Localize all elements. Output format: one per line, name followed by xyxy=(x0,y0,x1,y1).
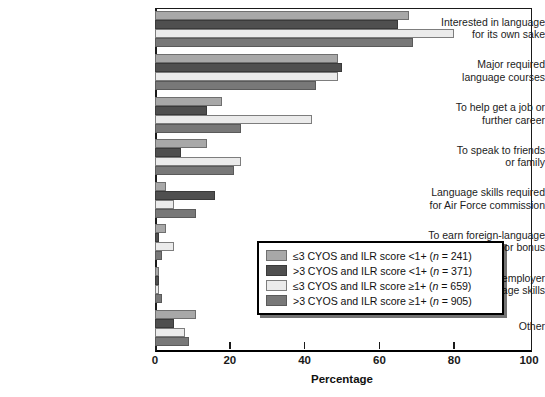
bar-0-series-0 xyxy=(155,11,409,20)
bar-5-series-2 xyxy=(155,242,174,251)
legend-label-1: >3 CYOS and ILR score <1+ (n = 371) xyxy=(293,265,472,277)
category-label-4: Language skills required for Air Force c… xyxy=(397,186,545,211)
legend-item-3: >3 CYOS and ILR score ≥1+ (n = 905) xyxy=(266,293,495,308)
x-tick-60 xyxy=(379,342,381,349)
legend-label-2: ≤3 CYOS and ILR score ≥1+ (n = 659) xyxy=(293,280,471,292)
bar-5-series-3 xyxy=(155,251,162,260)
x-tick-label-20: 20 xyxy=(223,354,236,366)
bar-3-series-0 xyxy=(155,139,207,148)
bar-5-series-1 xyxy=(155,233,159,242)
bar-3-series-1 xyxy=(155,148,181,157)
bar-1-series-3 xyxy=(155,81,316,90)
x-tick-label-60: 60 xyxy=(373,354,386,366)
bar-3-series-2 xyxy=(155,157,241,166)
bar-0-series-3 xyxy=(155,38,413,47)
bar-7-series-0 xyxy=(155,310,196,319)
x-tick-label-40: 40 xyxy=(298,354,311,366)
legend: ≤3 CYOS and ILR score <1+ (n = 241)>3 CY… xyxy=(257,241,504,315)
x-tick-label-100: 100 xyxy=(519,354,538,366)
bar-7-series-2 xyxy=(155,328,185,337)
bar-2-series-0 xyxy=(155,97,222,106)
bar-4-series-3 xyxy=(155,209,196,218)
category-label-1: Major required language courses xyxy=(397,58,545,83)
x-tick-40 xyxy=(304,342,306,349)
bar-0-series-2 xyxy=(155,29,454,38)
legend-swatch-0 xyxy=(266,250,287,261)
bar-0-series-1 xyxy=(155,20,398,29)
bar-2-series-1 xyxy=(155,106,207,115)
bar-2-series-2 xyxy=(155,115,312,124)
bar-6-series-1 xyxy=(155,276,159,285)
x-tick-20 xyxy=(229,342,231,349)
bar-2-series-3 xyxy=(155,124,241,133)
legend-item-0: ≤3 CYOS and ILR score <1+ (n = 241) xyxy=(266,248,495,263)
legend-swatch-3 xyxy=(266,295,287,306)
bar-6-series-3 xyxy=(155,294,162,303)
x-tick-label-80: 80 xyxy=(448,354,461,366)
legend-swatch-2 xyxy=(266,280,287,291)
bar-7-series-3 xyxy=(155,337,189,346)
legend-item-1: >3 CYOS and ILR score <1+ (n = 371) xyxy=(266,263,495,278)
category-label-7: Other xyxy=(397,320,545,333)
legend-swatch-1 xyxy=(266,265,287,276)
bar-7-series-1 xyxy=(155,319,174,328)
category-label-3: To speak to friends or family xyxy=(397,144,545,169)
bar-chart: Interested in language for its own sakeM… xyxy=(0,0,545,397)
bar-4-series-0 xyxy=(155,182,166,191)
bar-5-series-0 xyxy=(155,224,166,233)
bar-4-series-2 xyxy=(155,200,174,209)
x-tick-80 xyxy=(453,342,455,349)
bar-1-series-2 xyxy=(155,72,338,81)
x-axis-title: Percentage xyxy=(155,373,529,385)
bar-1-series-0 xyxy=(155,54,338,63)
bar-6-series-0 xyxy=(155,267,159,276)
legend-item-2: ≤3 CYOS and ILR score ≥1+ (n = 659) xyxy=(266,278,495,293)
bar-3-series-3 xyxy=(155,166,234,175)
legend-label-3: >3 CYOS and ILR score ≥1+ (n = 905) xyxy=(293,295,472,307)
bar-6-series-2 xyxy=(155,285,159,294)
category-label-2: To help get a job or further career xyxy=(397,101,545,126)
bar-1-series-1 xyxy=(155,63,342,72)
x-tick-label-0: 0 xyxy=(152,354,158,366)
bar-4-series-1 xyxy=(155,191,215,200)
legend-label-0: ≤3 CYOS and ILR score <1+ (n = 241) xyxy=(293,250,472,262)
